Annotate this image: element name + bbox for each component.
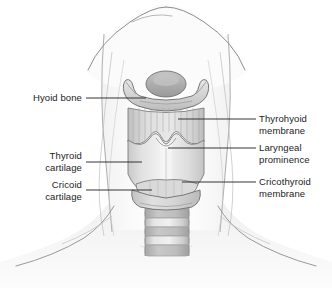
thyrohyoid-membrane: [128, 108, 204, 144]
label-hyoid-bone: Hyoid bone: [4, 92, 82, 104]
label-cricoid-cartilage: Cricoid cartilage: [4, 179, 82, 202]
label-cricothyroid-membrane: Cricothyroid membrane: [259, 176, 331, 199]
tracheal-ring: [145, 227, 189, 236]
tracheal-ring: [145, 245, 189, 256]
label-thyrohyoid-membrane: Thyrohyoid membrane: [259, 113, 331, 136]
tracheal-ring: [145, 236, 189, 245]
tracheal-ring: [145, 218, 189, 227]
epiglottis-highlight: [153, 74, 179, 86]
anatomy-figure-container: Hyoid bone Thyroid cartilage Cricoid car…: [0, 0, 332, 288]
label-thyroid-cartilage: Thyroid cartilage: [4, 150, 82, 173]
label-laryngeal-prominence: Laryngeal prominence: [259, 142, 331, 165]
